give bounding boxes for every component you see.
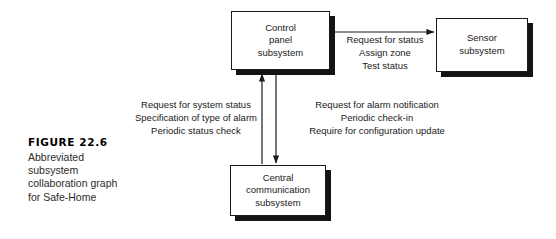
- edge-label-control-panel-to-central-communication: Request for alarm notification Periodic …: [288, 98, 466, 137]
- figure-canvas: FIGURE 22.6 Abbreviated subsystem collab…: [0, 0, 556, 239]
- edge-label-central-communication-to-control-panel: Request for system status Specification …: [116, 98, 276, 137]
- node-control-panel-subsystem[interactable]: Control panel subsystem: [231, 11, 330, 70]
- node-sensor-subsystem[interactable]: Sensor subsystem: [436, 18, 528, 72]
- edge-label-control-panel-to-sensor: Request for status Assign zone Test stat…: [333, 33, 437, 72]
- node-central-communication-subsystem-label: Central communication subsystem: [242, 172, 314, 210]
- node-control-panel-subsystem-label: Control panel subsystem: [254, 22, 307, 60]
- figure-caption-block: FIGURE 22.6 Abbreviated subsystem collab…: [28, 136, 132, 204]
- figure-number-label: FIGURE 22.6: [28, 136, 132, 148]
- node-sensor-subsystem-label: Sensor subsystem: [455, 32, 508, 57]
- figure-caption-text: Abbreviated subsystem collaboration grap…: [28, 151, 132, 204]
- node-central-communication-subsystem[interactable]: Central communication subsystem: [230, 165, 326, 216]
